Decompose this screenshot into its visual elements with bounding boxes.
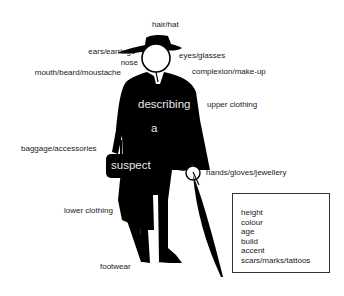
overlay-word-describing: describing [138,98,190,110]
label-eyes-glasses: eyes/glasses [179,51,225,60]
attribute-item: colour [241,218,329,228]
label-baggage-accessories: baggage/accessories [21,144,97,153]
label-hands-gloves-jewellery: hands/gloves/jewellery [206,168,287,177]
label-mouth-beard-moustache: mouth/beard/moustache [35,68,121,77]
head-outline [142,44,170,72]
label-nose: nose [121,58,138,67]
attribute-item: scars/marks/tattoos [241,256,329,266]
label-footwear: footwear [100,262,131,271]
label-upper-clothing: upper clothing [207,100,257,109]
label-complexion-makeup: complexion/make-up [192,67,266,76]
attribute-item: height [241,208,329,218]
overlay-word-a: a [151,122,157,134]
label-hair-hat: hair/hat [152,20,179,29]
general-attributes-box: height colour age build accent scars/mar… [232,193,330,273]
label-ears-earrings: ears/earrings [88,47,135,56]
umbrella-shape [193,175,223,277]
attribute-item: build [241,237,329,247]
attribute-item: age [241,227,329,237]
overlay-word-suspect: suspect [111,159,151,171]
attribute-item: accent [241,246,329,256]
label-lower-clothing: lower clothing [64,206,113,215]
